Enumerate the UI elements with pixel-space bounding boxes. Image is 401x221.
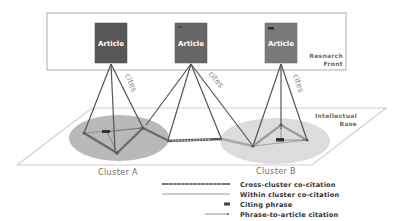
citing-phrase-icon <box>268 27 274 30</box>
intellectual-base-label-line2: Base <box>340 120 357 127</box>
legend-item-within-cluster: Within cluster co-citation <box>162 191 339 199</box>
citing-phrase-a <box>102 130 110 133</box>
legend-label-within-cluster: Within cluster co-citation <box>240 191 339 199</box>
article-2: Article <box>175 23 207 63</box>
legend-item-citing-phrase: Citing phrase <box>224 201 293 209</box>
legend-label-citing-phrase: Citing phrase <box>240 201 293 209</box>
article-3: Article <box>265 23 297 63</box>
legend: Cross-cluster co-citation Within cluster… <box>162 181 339 219</box>
intellectual-base-label-line1: Intellectual <box>315 112 357 119</box>
cocitation-diagram: Article Article Article Resnarch Front c… <box>0 0 401 221</box>
cluster-b-label: Cluster B <box>256 167 296 176</box>
cites-label-2: cites <box>206 70 225 90</box>
citing-phrase-legend-icon <box>224 203 230 206</box>
article-3-label: Article <box>268 40 294 48</box>
article-2-label: Article <box>178 40 204 48</box>
legend-item-cross-cluster: Cross-cluster co-citation <box>162 181 336 189</box>
article-1: Article <box>95 23 127 63</box>
legend-label-cross-cluster: Cross-cluster co-citation <box>240 181 336 189</box>
research-front-label-line2: Front <box>324 60 343 67</box>
cluster-a-region <box>69 115 169 161</box>
citing-phrase-b <box>276 138 284 142</box>
cluster-a-label: Cluster A <box>98 168 138 177</box>
research-front-label-line1: Resnarch <box>309 52 343 59</box>
legend-item-phrase-to-article: Phrase-to-article citation <box>205 211 339 219</box>
legend-label-phrase-to-article: Phrase-to-article citation <box>240 211 339 219</box>
article-1-label: Article <box>98 40 124 48</box>
cites-label-1: cites <box>123 72 138 93</box>
cites-label-3: cites <box>291 73 305 94</box>
